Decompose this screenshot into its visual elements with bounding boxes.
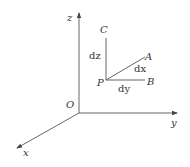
z-axis-label: z	[66, 12, 73, 23]
x-axis-label: x	[23, 147, 29, 158]
coordinate-diagram: z y x O C A P B dz dx dy	[0, 0, 190, 167]
y-axis-label: y	[170, 117, 177, 128]
x-axis	[17, 113, 79, 148]
segment-dy-label: dy	[118, 83, 130, 94]
origin-label: O	[66, 99, 74, 110]
point-a-label: A	[144, 51, 152, 62]
segment-dz-label: dz	[89, 50, 101, 61]
segment-dx-label: dx	[134, 63, 146, 74]
diagram-svg: z y x O C A P B dz dx dy	[0, 0, 190, 167]
point-c-label: C	[100, 24, 108, 35]
point-p-label: P	[96, 77, 104, 88]
point-b-label: B	[146, 76, 154, 87]
